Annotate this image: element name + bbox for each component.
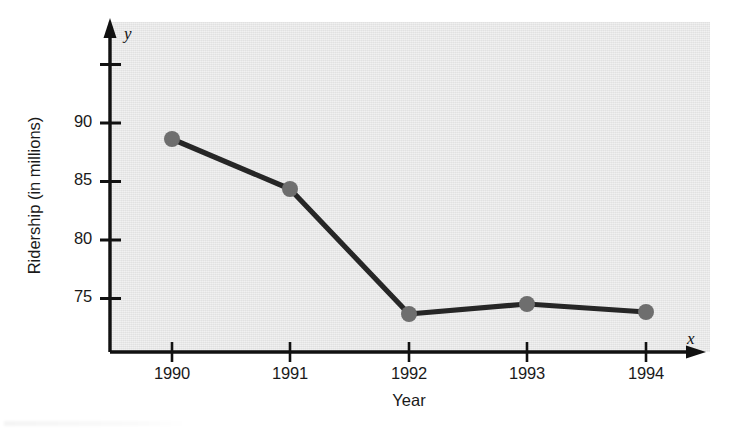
scan-artifact [4, 421, 188, 426]
data-points [164, 131, 654, 322]
data-point-1991 [282, 181, 298, 197]
y-tick-label-75: 75 [52, 287, 92, 306]
x-tick-label-1993: 1993 [497, 364, 557, 383]
data-line-ridership [172, 139, 646, 314]
x-axis-title: Year [349, 391, 469, 410]
data-point-1993 [519, 296, 535, 312]
x-axis-symbol: x [687, 329, 695, 349]
chart-figure: 90 85 80 75 1990 1991 1992 1993 1994 Rid… [0, 0, 746, 435]
y-tick-label-90: 90 [52, 112, 92, 131]
y-axis-title: Ridership (in millions) [25, 96, 44, 296]
data-point-1992 [401, 306, 417, 322]
x-tick-label-1992: 1992 [379, 364, 439, 383]
y-tick-label-80: 80 [52, 229, 92, 248]
y-tick-label-85: 85 [52, 170, 92, 189]
data-point-1994 [638, 304, 654, 320]
y-axis-symbol: y [124, 24, 132, 44]
x-tick-label-1990: 1990 [142, 364, 202, 383]
y-axis [104, 18, 117, 352]
data-point-1990 [164, 131, 180, 147]
x-tick-label-1994: 1994 [616, 364, 676, 383]
x-tick-label-1991: 1991 [260, 364, 320, 383]
